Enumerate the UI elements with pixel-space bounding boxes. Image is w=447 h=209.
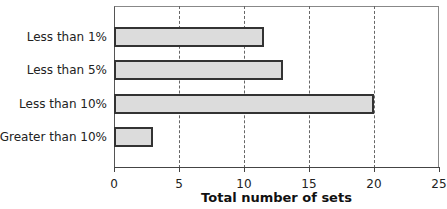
bar (114, 27, 264, 47)
gridline (374, 6, 375, 168)
gridline (309, 6, 310, 168)
x-tick-label: 0 (99, 177, 129, 191)
bar (114, 127, 153, 147)
category-label: Less than 1% (0, 27, 107, 47)
x-tick (244, 167, 245, 172)
bar (114, 94, 374, 114)
x-tick-label: 20 (359, 177, 389, 191)
x-axis-title: Total number of sets (114, 190, 439, 205)
x-tick (309, 167, 310, 172)
x-tick (374, 167, 375, 172)
bar (114, 60, 283, 80)
category-label: Less than 5% (0, 60, 107, 80)
x-tick (439, 167, 440, 172)
x-tick (114, 167, 115, 172)
x-axis-line (114, 167, 439, 168)
category-label: Less than 10% (0, 94, 107, 114)
x-tick-label: 25 (424, 177, 447, 191)
x-tick (179, 167, 180, 172)
category-label: Greater than 10% (0, 127, 107, 147)
x-tick-label: 5 (164, 177, 194, 191)
bar-chart: 0510152025 Less than 1%Less than 5%Less … (0, 0, 447, 209)
x-tick-label: 15 (294, 177, 324, 191)
x-tick-label: 10 (229, 177, 259, 191)
